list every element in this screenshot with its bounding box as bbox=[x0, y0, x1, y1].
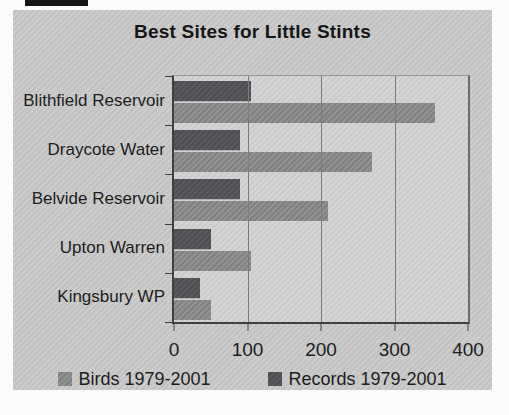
bar-records-1979-2001-kingsbury-wp bbox=[174, 278, 200, 298]
category-label-blithfield-reservoir: Blithfield Reservoir bbox=[21, 76, 165, 125]
bar-birds-1979-2001-blithfield-reservoir bbox=[174, 103, 435, 123]
legend-swatch-records-1979-2001 bbox=[268, 372, 282, 386]
y-tick-mark-2 bbox=[165, 174, 172, 175]
bar-birds-1979-2001-upton-warren bbox=[174, 251, 251, 271]
x-tick-label-300: 300 bbox=[379, 339, 411, 361]
category-labels: Blithfield ReservoirDraycote WaterBelvid… bbox=[21, 76, 165, 322]
bar-records-1979-2001-blithfield-reservoir bbox=[174, 81, 251, 101]
category-label-belvide-reservoir: Belvide Reservoir bbox=[21, 174, 165, 223]
legend-label-birds-1979-2001: Birds 1979-2001 bbox=[78, 369, 210, 390]
page: Best Sites for Little Stints Blithfield … bbox=[0, 0, 509, 415]
gridline-200 bbox=[321, 76, 322, 322]
bar-birds-1979-2001-draycote-water bbox=[174, 152, 372, 172]
x-tick-mark-0 bbox=[174, 324, 175, 331]
y-tick-mark-4 bbox=[165, 273, 172, 274]
gridline-100 bbox=[248, 76, 249, 322]
category-label-draycote-water: Draycote Water bbox=[21, 125, 165, 174]
legend-item-records-1979-2001: Records 1979-2001 bbox=[268, 369, 446, 390]
chart-title: Best Sites for Little Stints bbox=[13, 21, 492, 43]
plot-area bbox=[172, 75, 470, 324]
y-tick-mark-1 bbox=[165, 125, 172, 126]
bar-records-1979-2001-draycote-water bbox=[174, 130, 240, 150]
gridline-300 bbox=[395, 76, 396, 322]
category-label-upton-warren: Upton Warren bbox=[21, 224, 165, 273]
legend-swatch-birds-1979-2001 bbox=[58, 372, 72, 386]
x-tick-mark-100 bbox=[247, 324, 248, 331]
bar-birds-1979-2001-belvide-reservoir bbox=[174, 201, 328, 221]
y-tick-mark-5 bbox=[165, 322, 172, 323]
x-tick-label-0: 0 bbox=[169, 339, 180, 361]
scan-artifact bbox=[25, 0, 88, 6]
bar-records-1979-2001-upton-warren bbox=[174, 229, 211, 249]
x-tick-label-400: 400 bbox=[452, 339, 484, 361]
bar-birds-1979-2001-kingsbury-wp bbox=[174, 300, 211, 320]
x-tick-mark-400 bbox=[468, 324, 469, 331]
x-tick-label-100: 100 bbox=[232, 339, 264, 361]
x-tick-mark-200 bbox=[321, 324, 322, 331]
x-tick-mark-300 bbox=[394, 324, 395, 331]
y-tick-mark-0 bbox=[165, 76, 172, 77]
legend: Birds 1979-2001Records 1979-2001 bbox=[13, 367, 492, 391]
category-label-kingsbury-wp: Kingsbury WP bbox=[21, 273, 165, 322]
chart-panel: Best Sites for Little Stints Blithfield … bbox=[13, 10, 492, 390]
legend-item-birds-1979-2001: Birds 1979-2001 bbox=[58, 369, 210, 390]
legend-label-records-1979-2001: Records 1979-2001 bbox=[288, 369, 446, 390]
bar-records-1979-2001-belvide-reservoir bbox=[174, 179, 240, 199]
x-axis-labels: 0100200300400 bbox=[174, 337, 468, 361]
x-tick-label-200: 200 bbox=[305, 339, 337, 361]
y-tick-mark-3 bbox=[165, 224, 172, 225]
